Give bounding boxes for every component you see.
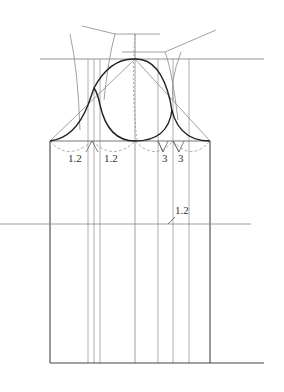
top-sketch-lines bbox=[70, 26, 216, 130]
frame bbox=[50, 141, 264, 363]
label-right-dart-2: 3 bbox=[178, 152, 184, 164]
mid-marker-tick bbox=[168, 217, 175, 224]
sleeve-cap-curve bbox=[50, 59, 210, 141]
vertical-guides bbox=[88, 59, 189, 363]
label-left-dart-2: 1.2 bbox=[104, 152, 118, 164]
label-right-dart-1: 3 bbox=[162, 152, 168, 164]
pattern-diagram: 1.2 1.2 3 3 1.2 bbox=[0, 0, 284, 392]
label-mid-marker: 1.2 bbox=[175, 204, 189, 216]
dashed-arcs bbox=[50, 141, 210, 152]
cap-curve-inner bbox=[135, 110, 172, 141]
label-left-dart-1: 1.2 bbox=[68, 152, 82, 164]
